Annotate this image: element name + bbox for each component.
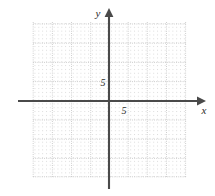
coordinate-plane-figure: y x 5 5 [0, 0, 215, 196]
x-axis-label: x [201, 104, 207, 116]
y-axis-arrowhead [105, 8, 114, 17]
coordinate-plane-svg: y x 5 5 [0, 0, 215, 196]
y-axis-tick-label-5: 5 [101, 77, 106, 88]
x-axis-tick-label-5: 5 [122, 105, 127, 116]
y-axis-label: y [95, 7, 101, 19]
